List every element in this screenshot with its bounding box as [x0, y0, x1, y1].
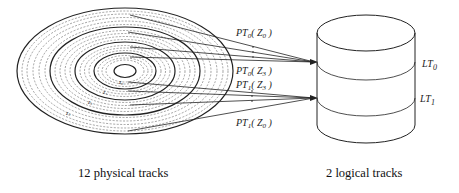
zone-label-z1: z₁ — [102, 89, 107, 95]
zone-label-z0: z₀ — [118, 79, 123, 85]
dashed-tracks — [22, 11, 228, 131]
label-lt1: LT1 — [419, 93, 435, 107]
diagram-canvas: z₀ z₁ z₂ z₃ PT0( Z0 ) PT0( Z3 ) PT1( Z3 … — [0, 0, 459, 193]
caption-logical-tracks: 2 logical tracks — [326, 166, 402, 180]
caption-physical-tracks: 12 physical tracks — [78, 166, 168, 180]
mapping-lines-lt1 — [128, 82, 314, 131]
mapping-labels: PT0( Z0 ) PT0( Z3 ) PT1( Z3 ) PT1( Z0 ) — [235, 27, 273, 130]
logical-cylinder — [317, 15, 415, 143]
zone-boundaries — [17, 8, 233, 134]
lt0-boundary — [317, 62, 415, 80]
disk-platter — [17, 8, 233, 134]
label-lt0: LT0 — [421, 58, 437, 72]
label-pt0-z0: PT0( Z0 ) — [235, 27, 273, 40]
mapping-lines-lt0 — [128, 15, 314, 62]
zone-label-z2: z₂ — [87, 99, 92, 105]
zone-labels: z₀ z₁ z₂ z₃ — [65, 79, 123, 116]
label-pt0-z3: PT0( Z3 ) — [235, 65, 273, 78]
lt1-boundary — [317, 98, 415, 116]
label-pt1-z3: PT1( Z3 ) — [235, 79, 273, 92]
zone-label-z3: z₃ — [65, 110, 70, 116]
label-pt1-z0: PT1( Z0 ) — [235, 117, 273, 130]
